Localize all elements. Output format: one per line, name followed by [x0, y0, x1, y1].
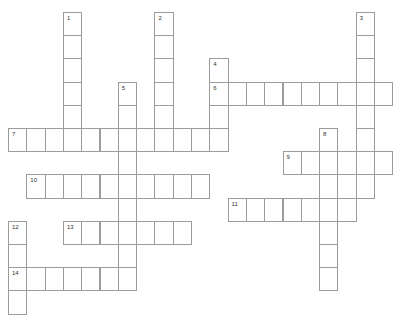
crossword-cell[interactable]: [264, 82, 283, 106]
crossword-cell[interactable]: [264, 198, 283, 222]
crossword-cell[interactable]: [283, 198, 302, 222]
crossword-cell[interactable]: [118, 128, 137, 152]
crossword-cell[interactable]: [63, 267, 82, 291]
crossword-cell[interactable]: [337, 198, 356, 222]
crossword-cell[interactable]: [118, 105, 137, 129]
crossword-cell[interactable]: [319, 198, 338, 222]
crossword-cell[interactable]: [154, 105, 173, 129]
crossword-cell[interactable]: 6: [209, 82, 228, 106]
crossword-cell[interactable]: 3: [356, 12, 375, 36]
crossword-cell[interactable]: [45, 174, 64, 198]
crossword-cell[interactable]: [191, 174, 210, 198]
crossword-cell[interactable]: [100, 267, 119, 291]
crossword-cell[interactable]: [319, 267, 338, 291]
crossword-cell[interactable]: [301, 151, 320, 175]
crossword-cell[interactable]: [356, 58, 375, 82]
crossword-cell[interactable]: [356, 151, 375, 175]
crossword-cell[interactable]: [118, 151, 137, 175]
crossword-cell[interactable]: [173, 221, 192, 245]
crossword-cell[interactable]: [154, 221, 173, 245]
crossword-cell[interactable]: [154, 35, 173, 59]
crossword-cell[interactable]: [319, 221, 338, 245]
crossword-cell[interactable]: [154, 174, 173, 198]
crossword-cell[interactable]: [301, 198, 320, 222]
crossword-cell[interactable]: [63, 35, 82, 59]
crossword-cell[interactable]: [63, 128, 82, 152]
crossword-cell[interactable]: 4: [209, 58, 228, 82]
crossword-cell[interactable]: 13: [63, 221, 82, 245]
crossword-cell[interactable]: [136, 221, 155, 245]
crossword-cell[interactable]: [246, 198, 265, 222]
crossword-cell[interactable]: [8, 244, 27, 268]
crossword-cell[interactable]: [154, 128, 173, 152]
crossword-cell[interactable]: [374, 151, 393, 175]
clue-number: 1: [67, 15, 70, 21]
crossword-cell[interactable]: [154, 82, 173, 106]
crossword-cell[interactable]: 10: [26, 174, 45, 198]
crossword-cell[interactable]: [118, 267, 137, 291]
crossword-cell[interactable]: [118, 221, 137, 245]
clue-number: 11: [232, 201, 238, 207]
crossword-cell[interactable]: [337, 174, 356, 198]
clue-number: 6: [213, 85, 216, 91]
crossword-cell[interactable]: [356, 82, 375, 106]
crossword-cell[interactable]: [209, 105, 228, 129]
crossword-cell[interactable]: [173, 128, 192, 152]
crossword-cell[interactable]: [81, 128, 100, 152]
crossword-cell[interactable]: 5: [118, 82, 137, 106]
crossword-cell[interactable]: [337, 151, 356, 175]
crossword-cell[interactable]: [63, 105, 82, 129]
crossword-cell[interactable]: [191, 128, 210, 152]
crossword-cell[interactable]: [319, 82, 338, 106]
crossword-cell[interactable]: [356, 128, 375, 152]
crossword-cell[interactable]: [81, 174, 100, 198]
crossword-cell[interactable]: 14: [8, 267, 27, 291]
clue-number: 12: [12, 224, 19, 230]
crossword-cell[interactable]: [136, 174, 155, 198]
crossword-cell[interactable]: 8: [319, 128, 338, 152]
crossword-cell[interactable]: [118, 174, 137, 198]
crossword-cell[interactable]: [173, 174, 192, 198]
crossword-cell[interactable]: [63, 174, 82, 198]
clue-number: 5: [122, 85, 125, 91]
crossword-cell[interactable]: [374, 82, 393, 106]
crossword-cell[interactable]: [283, 82, 302, 106]
crossword-cell[interactable]: [246, 82, 265, 106]
crossword-cell[interactable]: [63, 82, 82, 106]
crossword-cell[interactable]: [356, 105, 375, 129]
clue-number: 14: [12, 270, 19, 276]
crossword-cell[interactable]: 12: [8, 221, 27, 245]
crossword-cell[interactable]: 11: [228, 198, 247, 222]
crossword-cell[interactable]: [100, 174, 119, 198]
crossword-cell[interactable]: [209, 128, 228, 152]
crossword-cell[interactable]: [356, 174, 375, 198]
crossword-cell[interactable]: [8, 290, 27, 314]
crossword-cell[interactable]: [100, 221, 119, 245]
crossword-cell[interactable]: [319, 174, 338, 198]
crossword-cell[interactable]: [301, 82, 320, 106]
crossword-cell[interactable]: [26, 267, 45, 291]
crossword-cell[interactable]: 2: [154, 12, 173, 36]
crossword-cell[interactable]: 7: [8, 128, 27, 152]
crossword-cell[interactable]: [26, 128, 45, 152]
clue-number: 4: [213, 61, 216, 67]
clue-number: 8: [323, 131, 326, 137]
crossword-cell[interactable]: [100, 128, 119, 152]
crossword-cell[interactable]: [45, 128, 64, 152]
crossword-cell[interactable]: [81, 267, 100, 291]
crossword-cell[interactable]: [63, 58, 82, 82]
crossword-cell[interactable]: [118, 244, 137, 268]
crossword-cell[interactable]: [118, 198, 137, 222]
crossword-cell[interactable]: 9: [283, 151, 302, 175]
crossword-cell[interactable]: [319, 151, 338, 175]
clue-number: 10: [30, 177, 37, 183]
crossword-cell[interactable]: [319, 244, 338, 268]
crossword-cell[interactable]: [356, 35, 375, 59]
crossword-cell[interactable]: [337, 82, 356, 106]
crossword-cell[interactable]: [136, 128, 155, 152]
crossword-cell[interactable]: [81, 221, 100, 245]
crossword-cell[interactable]: [154, 58, 173, 82]
crossword-cell[interactable]: 1: [63, 12, 82, 36]
crossword-cell[interactable]: [228, 82, 247, 106]
crossword-cell[interactable]: [45, 267, 64, 291]
